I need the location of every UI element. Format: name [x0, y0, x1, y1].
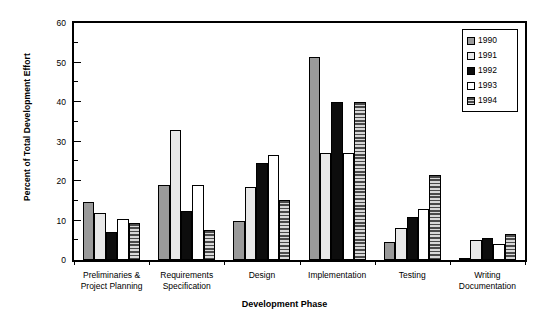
bar-1994-1	[129, 223, 140, 260]
bar-group	[74, 23, 149, 260]
bar-1990-1	[83, 202, 94, 260]
y-axis-title: Percent of Total Development Effort	[22, 2, 36, 252]
bar-1991-1	[94, 213, 105, 260]
bar-1991-6	[470, 240, 481, 260]
bar-1994-3	[279, 200, 290, 260]
x-tick-edge	[74, 260, 75, 265]
legend-label: 1993	[478, 81, 497, 90]
bar-group	[300, 23, 375, 260]
bar-1992-1	[106, 232, 117, 260]
x-tick	[450, 260, 451, 265]
legend-label: 1990	[478, 36, 497, 45]
bar-1993-6	[493, 244, 504, 260]
x-category-label: Writing Documentation	[438, 270, 537, 292]
bar-1990-6	[459, 258, 470, 260]
legend-label: 1994	[478, 96, 497, 105]
bar-1991-3	[245, 187, 256, 260]
x-tick	[375, 260, 376, 265]
bar-1993-5	[418, 209, 429, 260]
y-tick-label: 60	[40, 19, 66, 27]
bar-1993-4	[343, 153, 354, 260]
legend-item-1993: 1993	[467, 78, 514, 93]
bar-1994-4	[354, 102, 365, 260]
legend-item-1994: 1994	[467, 93, 514, 108]
legend-swatch-icon	[467, 52, 475, 60]
bar-1990-4	[309, 57, 320, 260]
bar-1993-2	[192, 185, 203, 260]
legend-item-1991: 1991	[467, 48, 514, 63]
bar-1993-1	[117, 219, 128, 260]
x-axis-title-text: Development Phase	[242, 299, 328, 309]
bar-chart: Percent of Total Development Effort 0102…	[0, 0, 555, 324]
legend-item-1992: 1992	[467, 63, 514, 78]
legend-swatch-icon	[467, 67, 475, 75]
bar-1992-5	[407, 217, 418, 260]
bar-1994-6	[505, 234, 516, 260]
legend-item-1990: 1990	[467, 33, 514, 48]
x-tick-edge	[525, 260, 526, 265]
x-axis-title: Development Phase	[0, 299, 555, 309]
x-tick	[224, 260, 225, 265]
y-tick-label: 30	[40, 138, 66, 146]
bar-1990-3	[233, 221, 244, 261]
bar-1991-2	[170, 130, 181, 260]
legend-swatch-icon	[467, 97, 475, 105]
bar-1994-2	[204, 230, 215, 260]
bar-1990-5	[384, 242, 395, 260]
bar-group	[224, 23, 299, 260]
legend-label: 1991	[478, 51, 497, 60]
bar-1991-4	[320, 153, 331, 260]
legend-label: 1992	[478, 66, 497, 75]
bar-group	[149, 23, 224, 260]
y-tick-label: 40	[40, 98, 66, 106]
bar-1993-3	[268, 155, 279, 260]
bar-1991-5	[395, 228, 406, 260]
y-tick-label: 0	[40, 256, 66, 264]
bar-1992-6	[482, 238, 493, 260]
y-tick-label: 10	[40, 217, 66, 225]
bar-1992-3	[256, 163, 267, 260]
x-tick	[300, 260, 301, 265]
legend-swatch-icon	[467, 82, 475, 90]
y-tick-label: 50	[40, 59, 66, 67]
bar-1992-2	[181, 211, 192, 260]
x-tick	[149, 260, 150, 265]
bar-1994-5	[429, 175, 440, 260]
plot-inner	[74, 23, 525, 260]
legend: 19901991199219931994	[462, 29, 518, 112]
bar-1990-2	[158, 185, 169, 260]
y-tick-label: 20	[40, 177, 66, 185]
legend-swatch-icon	[467, 37, 475, 45]
bar-1992-4	[331, 102, 342, 260]
bar-group	[375, 23, 450, 260]
plot-area	[72, 21, 527, 262]
